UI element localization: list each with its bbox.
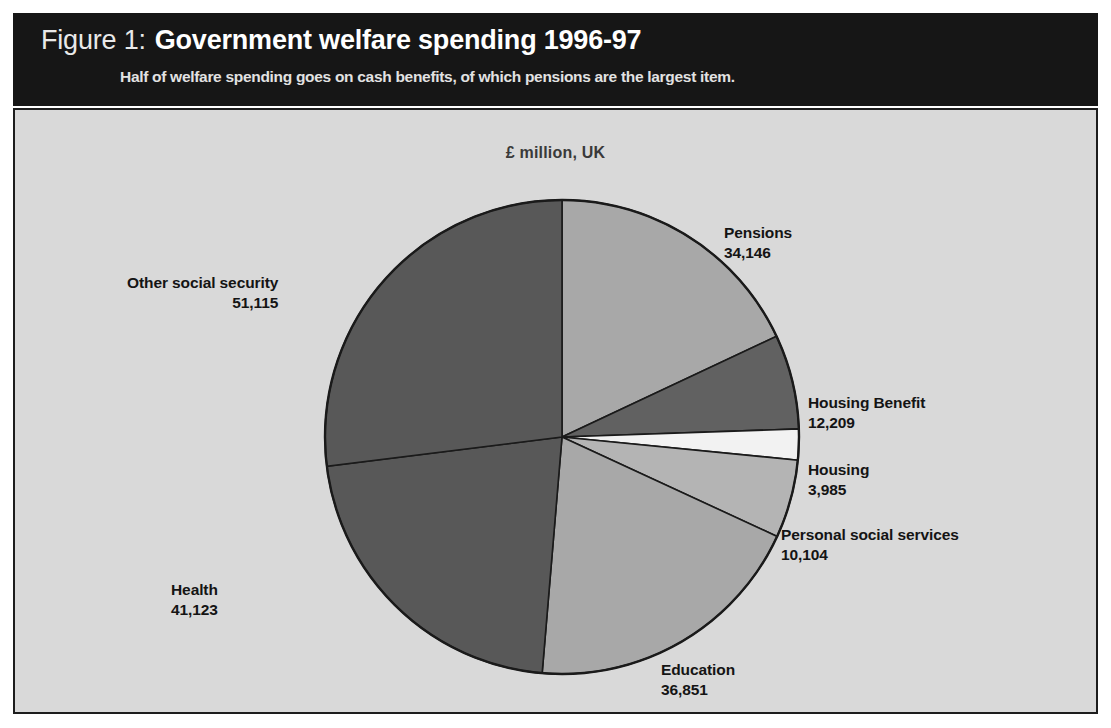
callout-value: 36,851 <box>661 680 735 700</box>
callout-label: Health <box>171 581 218 598</box>
callout-label: Pensions <box>724 224 792 241</box>
title-line: Figure 1:Government welfare spending 199… <box>41 25 641 56</box>
callout-housing: Housing 3,985 <box>808 460 869 501</box>
callout-label: Personal social services <box>781 526 959 543</box>
pie-chart <box>15 110 1096 712</box>
callout-value: 12,209 <box>808 413 925 433</box>
callout-education: Education 36,851 <box>661 660 735 701</box>
callout-personal-social-services: Personal social services 10,104 <box>781 525 959 566</box>
callout-health: Health 41,123 <box>171 580 218 621</box>
figure-subtitle: Half of welfare spending goes on cash be… <box>120 68 735 86</box>
callout-label: Housing <box>808 461 869 478</box>
callout-label: Housing Benefit <box>808 394 925 411</box>
callout-housing-benefit: Housing Benefit 12,209 <box>808 393 925 434</box>
callout-value: 34,146 <box>724 243 792 263</box>
callout-label: Education <box>661 661 735 678</box>
pie-slice-group <box>325 200 799 674</box>
figure-number-label: Figure 1: <box>41 25 146 55</box>
chart-panel: £ million, UK Pensions 34,146 Housing Be… <box>13 108 1098 714</box>
figure-header: Figure 1:Government welfare spending 199… <box>13 13 1098 106</box>
callout-label: Other social security <box>127 274 278 291</box>
callout-other-social-security: Other social security 51,115 <box>127 273 278 314</box>
figure-container: Figure 1:Government welfare spending 199… <box>13 13 1098 714</box>
page-title: Government welfare spending 1996-97 <box>155 25 642 55</box>
callout-value: 3,985 <box>808 480 869 500</box>
pie-slice-other-social-security <box>325 200 562 466</box>
pie-slice-health <box>327 437 562 673</box>
callout-pensions: Pensions 34,146 <box>724 223 792 264</box>
callout-value: 10,104 <box>781 545 959 565</box>
callout-value: 51,115 <box>127 293 278 313</box>
callout-value: 41,123 <box>171 600 218 620</box>
